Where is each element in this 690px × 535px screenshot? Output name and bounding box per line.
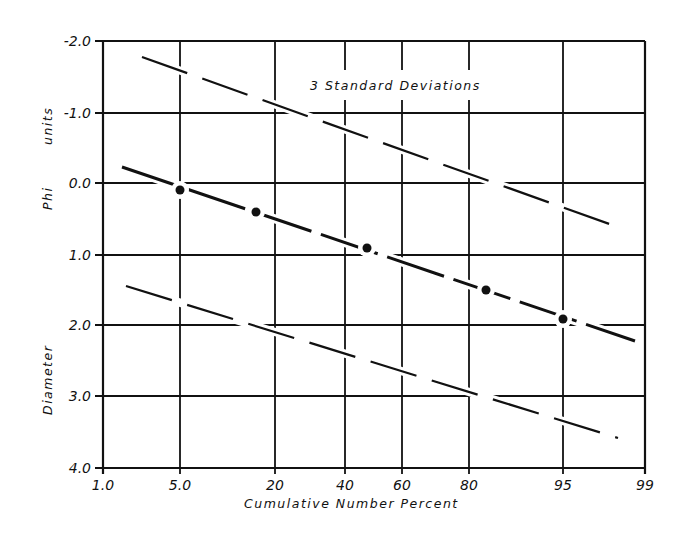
data-point <box>559 315 568 324</box>
x-tick-label: 5.0 <box>169 477 191 493</box>
x-tick-label: 95 <box>554 477 572 493</box>
y-tick-label: 3.0 <box>69 388 91 404</box>
x-tick-label: 60 <box>393 477 411 493</box>
y-tick-label: 2.0 <box>69 317 91 333</box>
x-tick-label: 40 <box>336 477 354 493</box>
y-axis-ticks: -2.0-1.00.01.02.03.04.0 <box>64 33 91 476</box>
y-tick-label: 1.0 <box>69 247 91 263</box>
y-tick-label: 0.0 <box>69 175 91 191</box>
data-point <box>482 286 491 295</box>
svg-text:Phi: Phi <box>40 187 55 210</box>
x-axis-label: Cumulative Number Percent <box>244 496 459 511</box>
probability-plot: -2.0-1.00.01.02.03.04.0 1.05.02040608095… <box>0 0 690 535</box>
svg-text:Diameter: Diameter <box>40 345 55 415</box>
data-lines <box>122 57 635 438</box>
x-tick-label: 1.0 <box>92 477 114 493</box>
x-axis-ticks: 1.05.0204060809599 <box>92 477 654 493</box>
data-point <box>252 208 261 217</box>
x-tick-label: 80 <box>460 477 478 493</box>
svg-text:units: units <box>40 107 55 145</box>
grid-lines <box>95 41 645 474</box>
x-tick-label: 20 <box>266 477 284 493</box>
y-axis-label: Diameter Phi units <box>40 107 55 415</box>
y-tick-label: 4.0 <box>69 460 91 476</box>
y-tick-label: -1.0 <box>64 105 91 121</box>
x-tick-label: 99 <box>636 477 654 493</box>
y-tick-label: -2.0 <box>64 33 91 49</box>
annotation-label: 3 Standard Deviations <box>310 78 481 93</box>
data-point <box>176 186 185 195</box>
data-point <box>363 244 372 253</box>
